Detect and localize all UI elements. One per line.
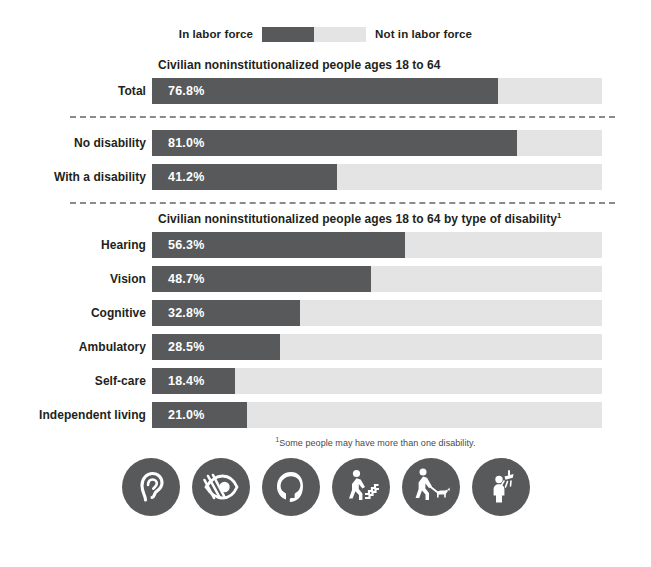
bar-label-cognitive: Cognitive	[0, 306, 152, 320]
bar-track-vision: 48.7%	[152, 266, 602, 292]
bar-value-with-a-disability: 41.2%	[168, 164, 204, 190]
crossed-eye-vision-icon	[192, 458, 250, 516]
bar-label-independent-living: Independent living	[0, 408, 152, 422]
person-guide-dog-icon	[402, 458, 460, 516]
bar-value-hearing: 56.3%	[168, 232, 204, 258]
bar-track-with-a-disability: 41.2%	[152, 164, 602, 190]
bar-track-cognitive: 32.8%	[152, 300, 602, 326]
bar-value-vision: 48.7%	[168, 266, 204, 292]
legend-label-not-in-labor-force: Not in labor force	[375, 28, 472, 40]
bar-fill-no-disability	[152, 130, 517, 156]
section-title-by-type-text: Civilian noninstitutionalized people age…	[158, 212, 557, 226]
legend-swatch-in-labor-force	[262, 27, 314, 42]
section-title-by-type-of-disability: Civilian noninstitutionalized people age…	[158, 212, 651, 226]
footnote-text: Some people may have more than one disab…	[279, 438, 475, 448]
bar-row-no-disability: No disability 81.0%	[0, 130, 651, 156]
bar-label-ambulatory: Ambulatory	[0, 340, 152, 354]
bar-row-total: Total 76.8%	[0, 78, 651, 104]
bar-row-hearing: Hearing 56.3%	[0, 232, 651, 258]
bar-label-no-disability: No disability	[0, 136, 152, 150]
ear-hearing-icon	[122, 458, 180, 516]
chart-legend: In labor force Not in labor force	[0, 0, 651, 44]
disability-icon-row	[0, 458, 651, 516]
legend-swatch-not-in-labor-force	[314, 27, 366, 42]
bar-value-no-disability: 81.0%	[168, 130, 204, 156]
section-title-total: Civilian noninstitutionalized people age…	[158, 58, 651, 72]
disability-type-bar-list: Hearing 56.3% Vision 48.7% Cognitive 32.…	[0, 232, 651, 428]
bar-value-cognitive: 32.8%	[168, 300, 204, 326]
bar-track-self-care: 18.4%	[152, 368, 602, 394]
bar-label-with-a-disability: With a disability	[0, 170, 152, 184]
bar-value-total: 76.8%	[168, 78, 204, 104]
bar-track-hearing: 56.3%	[152, 232, 602, 258]
bar-track-total: 76.8%	[152, 78, 602, 104]
legend-label-in-labor-force: In labor force	[179, 28, 253, 40]
bar-row-with-a-disability: With a disability 41.2%	[0, 164, 651, 190]
section-title-footnote-marker: 1	[557, 211, 561, 220]
bar-label-self-care: Self-care	[0, 374, 152, 388]
bar-value-ambulatory: 28.5%	[168, 334, 204, 360]
bar-row-independent-living: Independent living 21.0%	[0, 402, 651, 428]
bar-row-cognitive: Cognitive 32.8%	[0, 300, 651, 326]
person-shower-selfcare-icon	[472, 458, 530, 516]
chart-footnote: 1Some people may have more than one disa…	[100, 438, 651, 448]
bar-row-ambulatory: Ambulatory 28.5%	[0, 334, 651, 360]
bar-value-self-care: 18.4%	[168, 368, 204, 394]
bar-track-independent-living: 21.0%	[152, 402, 602, 428]
bar-row-self-care: Self-care 18.4%	[0, 368, 651, 394]
bar-row-vision: Vision 48.7%	[0, 266, 651, 292]
head-profile-cognitive-icon	[262, 458, 320, 516]
bar-label-vision: Vision	[0, 272, 152, 286]
person-stairs-ambulatory-icon	[332, 458, 390, 516]
bar-label-total: Total	[0, 84, 152, 98]
bar-value-independent-living: 21.0%	[168, 402, 204, 428]
bar-label-hearing: Hearing	[0, 238, 152, 252]
bar-track-ambulatory: 28.5%	[152, 334, 602, 360]
bar-track-no-disability: 81.0%	[152, 130, 602, 156]
